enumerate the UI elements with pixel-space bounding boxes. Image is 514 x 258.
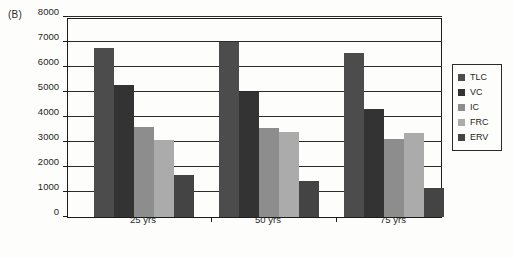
- plot-area: 010002000300040005000600070008000: [67, 18, 442, 218]
- y-axis-tick-label: 2000: [38, 155, 59, 166]
- x-axis-tick: [336, 217, 337, 222]
- bar-frc-0: [154, 140, 174, 218]
- y-axis-tick-label: 7000: [38, 30, 59, 41]
- legend-label: VC: [470, 88, 483, 97]
- legend-label: TLC: [470, 73, 487, 82]
- legend-swatch-icon: [458, 89, 465, 96]
- bar-vc-1: [239, 92, 259, 218]
- panel-label: (B): [8, 9, 22, 20]
- y-axis-tick: [63, 166, 68, 167]
- bar-vc-2: [364, 109, 384, 217]
- y-axis-tick-label: 5000: [38, 80, 59, 91]
- legend-item-frc[interactable]: FRC: [458, 115, 497, 130]
- legend-swatch-icon: [458, 104, 465, 111]
- y-axis-tick: [63, 216, 68, 217]
- bar-ic-2: [384, 139, 404, 217]
- bar-ic-1: [259, 128, 279, 217]
- bar-frc-2: [404, 133, 424, 217]
- gridline: [68, 66, 442, 67]
- legend-swatch-icon: [458, 74, 465, 81]
- x-axis-label-1: 50 yrs: [255, 214, 281, 225]
- y-axis-tick: [63, 91, 68, 92]
- x-axis-tick: [211, 217, 212, 222]
- legend-item-tlc[interactable]: TLC: [458, 70, 497, 85]
- bar-erv-2: [424, 188, 444, 217]
- legend-label: FRC: [470, 118, 489, 127]
- y-axis-tick: [63, 66, 68, 67]
- bar-frc-1: [279, 132, 299, 218]
- bar-tlc-1: [219, 42, 239, 217]
- bar-tlc-0: [94, 48, 114, 217]
- legend-label: ERV: [470, 133, 488, 142]
- x-axis-label-0: 25 yrs: [130, 214, 156, 225]
- bar-erv-1: [299, 181, 319, 217]
- y-axis-tick-label: 3000: [38, 130, 59, 141]
- plot-frame-right: [441, 18, 442, 217]
- y-axis-tick-label: 0: [54, 205, 59, 216]
- gridline: [68, 41, 442, 42]
- legend-item-erv[interactable]: ERV: [458, 130, 497, 145]
- y-axis-tick-label: 4000: [38, 105, 59, 116]
- legend-swatch-icon: [458, 119, 465, 126]
- chart-figure: (B) 010002000300040005000600070008000 25…: [0, 0, 514, 258]
- y-axis-tick-label: 1000: [38, 180, 59, 191]
- chart-legend: TLCVCICFRCERV: [452, 64, 502, 151]
- legend-item-ic[interactable]: IC: [458, 100, 497, 115]
- gridline: [68, 16, 442, 17]
- bar-vc-0: [114, 85, 134, 218]
- bar-ic-0: [134, 127, 154, 217]
- y-axis-tick: [63, 191, 68, 192]
- y-axis-tick: [63, 41, 68, 42]
- legend-swatch-icon: [458, 134, 465, 141]
- legend-label: IC: [470, 103, 479, 112]
- bar-erv-0: [174, 175, 194, 217]
- plot-frame-top: [68, 18, 442, 19]
- y-axis-tick-label: 8000: [38, 5, 59, 16]
- bar-tlc-2: [344, 53, 364, 217]
- y-axis-tick: [63, 16, 68, 17]
- x-axis-label-2: 75 yrs: [380, 214, 406, 225]
- y-axis-tick-label: 6000: [38, 55, 59, 66]
- y-axis-tick: [63, 141, 68, 142]
- legend-item-vc[interactable]: VC: [458, 85, 497, 100]
- y-axis-tick: [63, 116, 68, 117]
